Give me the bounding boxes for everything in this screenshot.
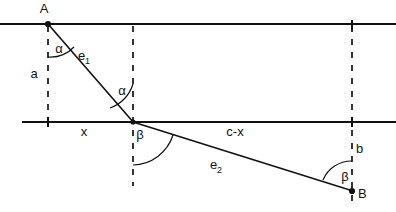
point-b-label: B: [358, 186, 367, 201]
ray-e2-label: e2: [210, 157, 222, 175]
ray-e1-line: [48, 24, 134, 123]
ray-e2-base: e: [210, 157, 217, 172]
ray-e1-base: e: [78, 48, 85, 63]
segment-x-label: x: [81, 124, 88, 139]
segment-b-label: b: [356, 141, 363, 156]
segment-a-label: a: [30, 66, 38, 81]
point-b-dot: [349, 188, 355, 194]
point-a-label: A: [40, 1, 49, 16]
ray-e1-label: e1: [78, 48, 90, 66]
segment-c-minus-x-label: c-x: [226, 124, 244, 139]
angle-beta-mid-label: β: [136, 127, 143, 142]
ray-e2-subscript: 2: [217, 165, 222, 175]
geometry-diagram: A B a b x c-x α α β β e1 e2: [0, 0, 396, 212]
crossing-point-dot: [130, 119, 135, 124]
angle-beta-bottom-label: β: [341, 169, 348, 184]
ray-e1-subscript: 1: [85, 56, 90, 66]
point-a-dot: [45, 21, 51, 27]
angle-alpha-mid-label: α: [118, 83, 126, 98]
diagram-canvas: A B a b x c-x α α β β e1 e2: [0, 0, 396, 212]
angle-alpha-top-label: α: [55, 41, 63, 56]
